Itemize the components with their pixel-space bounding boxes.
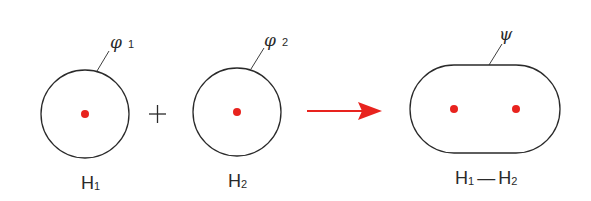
orbital-psi-leader-line bbox=[489, 44, 502, 65]
nucleus-h1-dot bbox=[450, 105, 458, 113]
orbital-psi-stadium bbox=[410, 65, 560, 153]
h2-bond-formation-diagram: φ1 H1 φ2 H2 ψ H1—H2 bbox=[0, 0, 591, 201]
molecule-h1-h2: ψ H1—H2 bbox=[410, 24, 560, 188]
right-arrow-icon bbox=[307, 102, 382, 120]
atom-h2: φ2 H2 bbox=[193, 30, 288, 191]
nucleus-h1-dot bbox=[81, 110, 89, 118]
atom-h2-label: H2 bbox=[228, 171, 247, 191]
nucleus-h2-dot bbox=[512, 105, 520, 113]
nucleus-h2-dot bbox=[233, 108, 241, 116]
orbital-phi2-label: φ2 bbox=[264, 30, 288, 50]
molecule-h1-h2-label: H1—H2 bbox=[455, 168, 517, 188]
orbital-phi1-label: φ1 bbox=[110, 32, 134, 52]
atom-h1-label: H1 bbox=[81, 173, 100, 193]
plus-operator bbox=[149, 105, 166, 123]
orbital-psi-label: ψ bbox=[499, 24, 513, 44]
orbital-phi1-leader-line bbox=[97, 51, 109, 71]
atom-h1: φ1 H1 bbox=[41, 32, 134, 193]
orbital-phi2-leader-line bbox=[251, 48, 264, 69]
